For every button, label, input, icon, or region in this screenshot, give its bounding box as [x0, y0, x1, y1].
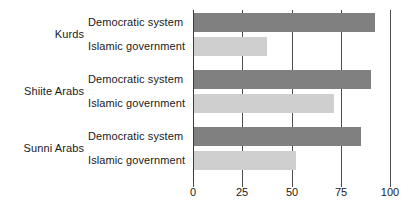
x-tick-label-100: 100: [381, 186, 399, 198]
series-label-democratic-0: Democratic system: [88, 16, 191, 28]
group-label-shiite-arabs: Shiite Arabs: [0, 85, 84, 97]
series-label-islamic-0: Islamic government: [88, 40, 191, 52]
x-axis-tick-labels: 0255075100: [193, 186, 390, 206]
bar-chart: KurdsShiite ArabsSunni Arabs Democratic …: [0, 0, 417, 209]
series-label-islamic-2: Islamic government: [88, 154, 191, 166]
bar-shiite-arabs-islamic: [194, 94, 334, 113]
bar-sunni-arabs-democratic: [194, 127, 361, 146]
bar-sunni-arabs-islamic: [194, 151, 296, 170]
series-label-democratic-2: Democratic system: [88, 130, 191, 142]
group-label-sunni-arabs: Sunni Arabs: [0, 142, 84, 154]
x-tick-label-75: 75: [335, 186, 347, 198]
gridline-100: [390, 10, 391, 182]
group-label-kurds: Kurds: [0, 28, 84, 40]
x-tick-label-0: 0: [190, 186, 196, 198]
bar-kurds-democratic: [194, 13, 375, 32]
x-tick-label-50: 50: [286, 186, 298, 198]
group-label-column: KurdsShiite ArabsSunni Arabs: [0, 0, 84, 209]
series-label-democratic-1: Democratic system: [88, 73, 191, 85]
gridline-75: [341, 10, 342, 182]
series-label-islamic-1: Islamic government: [88, 97, 191, 109]
plot-area: [193, 10, 390, 182]
bar-shiite-arabs-democratic: [194, 70, 371, 89]
bar-kurds-islamic: [194, 37, 267, 56]
series-label-column: Democratic systemIslamic governmentDemoc…: [88, 0, 191, 209]
x-tick-label-25: 25: [236, 186, 248, 198]
